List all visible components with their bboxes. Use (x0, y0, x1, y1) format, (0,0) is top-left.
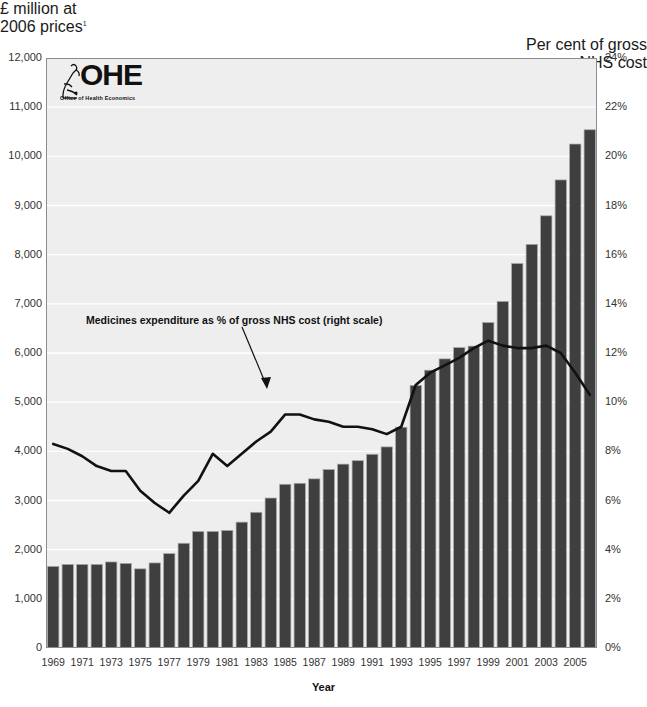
bar-1997 (454, 348, 465, 648)
y-axis-left-tick-5000: 5,000 (0, 395, 42, 407)
bar-1998 (468, 346, 479, 648)
bar-1983 (251, 512, 262, 648)
left-axis-caption-line1: £ million at (0, 0, 647, 18)
bar-1984 (265, 498, 276, 648)
bar-1979 (193, 531, 204, 648)
y-axis-left-tick-9000: 9,000 (0, 199, 42, 211)
ohe-logo-subtitle: Office of Health Economics (60, 95, 135, 101)
series-annotation-label: Medicines expenditure as % of gross NHS … (86, 314, 382, 326)
left-axis-footnote-marker: 1 (83, 20, 87, 27)
bar-1993 (396, 427, 407, 648)
y-axis-right-tick-8: 8% (605, 444, 645, 456)
y-axis-right-tick-0: 0% (605, 641, 645, 653)
bar-2000 (497, 301, 508, 648)
bar-1973 (106, 562, 117, 648)
y-axis-right-tick-22: 22% (605, 100, 645, 112)
bar-2003 (541, 216, 552, 648)
y-axis-right-tick-4: 4% (605, 543, 645, 555)
bar-1976 (149, 563, 160, 648)
y-axis-right-tick-16: 16% (605, 248, 645, 260)
y-axis-right-tick-12: 12% (605, 346, 645, 358)
y-axis-left-tick-1000: 1,000 (0, 592, 42, 604)
bar-1975 (135, 569, 146, 648)
y-axis-left-tick-6000: 6,000 (0, 346, 42, 358)
y-axis-right-tick-18: 18% (605, 199, 645, 211)
bar-1974 (120, 563, 131, 648)
bar-1996 (439, 359, 450, 648)
y-axis-right-tick-20: 20% (605, 149, 645, 161)
bar-2001 (512, 264, 523, 648)
right-axis-caption-line1: Per cent of gross (0, 36, 647, 54)
y-axis-right-tick-2: 2% (605, 592, 645, 604)
bar-2004 (555, 180, 566, 648)
y-axis-right-tick-10: 10% (605, 395, 645, 407)
bar-1981 (222, 530, 233, 648)
bar-1980 (207, 531, 218, 648)
bar-1969 (48, 566, 59, 648)
ohe-logo-text: OHE (80, 58, 142, 92)
y-axis-left-tick-0: 0 (0, 641, 42, 653)
bar-1995 (425, 370, 436, 648)
chart-container: £ million at 2006 prices1 Per cent of gr… (0, 0, 647, 707)
bar-1982 (236, 522, 247, 648)
y-axis-left-tick-10000: 10,000 (0, 149, 42, 161)
left-axis-caption-line2: 2006 prices1 (0, 18, 647, 36)
bar-1988 (323, 470, 334, 648)
bar-1987 (309, 479, 320, 648)
y-axis-left-tick-11000: 11,000 (0, 100, 42, 112)
bar-1985 (280, 484, 291, 648)
bar-1977 (164, 554, 175, 648)
bar-1994 (410, 385, 421, 648)
plot-area (46, 58, 597, 648)
y-axis-left-tick-8000: 8,000 (0, 248, 42, 260)
bar-1989 (338, 464, 349, 648)
y-axis-left-tick-3000: 3,000 (0, 494, 42, 506)
plot-svg (46, 58, 597, 648)
bar-1970 (62, 564, 73, 648)
bar-1971 (77, 564, 88, 648)
y-axis-left-tick-7000: 7,000 (0, 297, 42, 309)
y-axis-right-tick-14: 14% (605, 297, 645, 309)
bar-series (48, 130, 596, 648)
percentage-line-series (53, 341, 590, 513)
y-axis-left-tick-12000: 12,000 (0, 51, 42, 63)
annotation-arrow-head (261, 377, 271, 389)
bar-1991 (367, 454, 378, 648)
bar-1986 (294, 483, 305, 648)
bar-1992 (381, 447, 392, 648)
y-axis-right-tick-6: 6% (605, 494, 645, 506)
left-axis-caption: £ million at 2006 prices1 (0, 0, 647, 36)
bar-2002 (526, 244, 537, 648)
bar-1990 (352, 461, 363, 648)
y-axis-left-tick-2000: 2,000 (0, 543, 42, 555)
bar-1972 (91, 564, 102, 648)
x-axis-title: Year (0, 681, 647, 693)
bar-1978 (178, 543, 189, 648)
y-axis-right-tick-24: 24% (605, 51, 645, 63)
bar-1999 (483, 323, 494, 648)
bar-2005 (570, 144, 581, 648)
x-axis-tick-2005: 2005 (555, 656, 595, 668)
y-axis-left-tick-4000: 4,000 (0, 444, 42, 456)
